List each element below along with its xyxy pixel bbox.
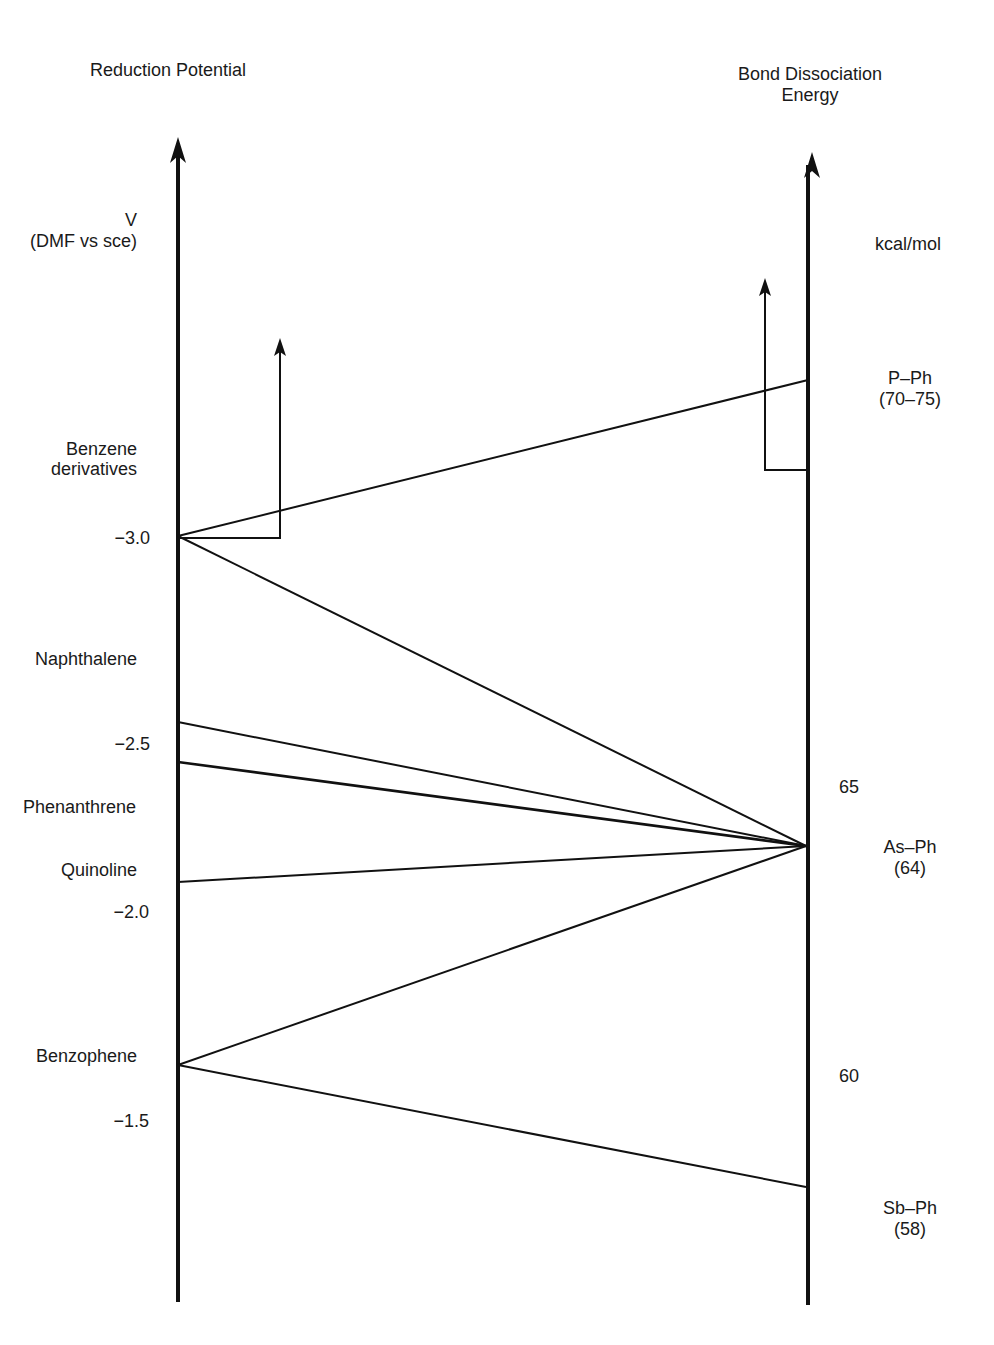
p-ph-range-arrow bbox=[759, 278, 808, 470]
right-axis-unit: kcal/mol bbox=[875, 234, 941, 255]
line-benzene-asph bbox=[178, 536, 806, 846]
right-axis bbox=[804, 152, 820, 1305]
benzene-range-arrow bbox=[178, 338, 286, 538]
line-quinoline-asph bbox=[178, 846, 806, 882]
line-phenanthrene-asph bbox=[178, 762, 806, 846]
connection-lines bbox=[178, 380, 808, 1187]
tick-label-neg2-0: −2.0 bbox=[113, 902, 149, 923]
line-naphthalene-asph bbox=[178, 722, 806, 846]
left-axis bbox=[170, 137, 186, 1302]
compound-label-naphthalene: Naphthalene bbox=[35, 649, 137, 670]
bond-label-p-ph: P–Ph bbox=[860, 368, 960, 389]
line-benzophene-asph bbox=[178, 846, 806, 1065]
tick-label-65: 65 bbox=[839, 777, 859, 798]
compound-label-benzophene: Benzophene bbox=[36, 1046, 137, 1067]
right-axis-title-2: Energy bbox=[710, 85, 910, 106]
diagram-canvas bbox=[0, 0, 994, 1345]
compound-label-phenanthrene: Phenanthrene bbox=[23, 797, 136, 818]
bond-label-as-ph: As–Ph bbox=[860, 837, 960, 858]
tick-label-neg1-5: −1.5 bbox=[113, 1111, 149, 1132]
compound-label-benzene: Benzene bbox=[66, 439, 137, 460]
left-axis-unit-ref: (DMF vs sce) bbox=[30, 231, 137, 252]
bond-label-sb-ph: Sb–Ph bbox=[860, 1198, 960, 1219]
bond-value-sb-ph: (58) bbox=[860, 1219, 960, 1240]
compound-label-benzene-2: derivatives bbox=[51, 459, 137, 480]
right-axis-title: Bond Dissociation bbox=[710, 64, 910, 85]
line-benzene-pph bbox=[178, 380, 808, 536]
left-axis-title: Reduction Potential bbox=[90, 60, 246, 81]
line-benzophene-sbph bbox=[178, 1065, 806, 1187]
bond-value-as-ph: (64) bbox=[860, 858, 960, 879]
tick-label-neg3-0: −3.0 bbox=[114, 528, 150, 549]
left-axis-unit-v: V bbox=[125, 210, 137, 231]
bond-value-p-ph: (70–75) bbox=[860, 389, 960, 410]
compound-label-quinoline: Quinoline bbox=[61, 860, 137, 881]
tick-label-neg2-5: −2.5 bbox=[114, 734, 150, 755]
tick-label-60: 60 bbox=[839, 1066, 859, 1087]
